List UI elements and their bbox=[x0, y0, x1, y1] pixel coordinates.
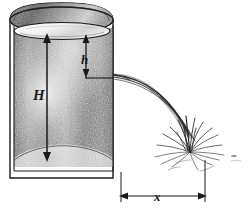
water-body bbox=[14, 24, 113, 167]
ground-splash bbox=[155, 116, 241, 171]
figure-canvas bbox=[0, 0, 249, 213]
dimension-arrow-x bbox=[119, 160, 207, 202]
dimension-label-x: x bbox=[154, 190, 161, 203]
dimension-label-h: h bbox=[81, 53, 88, 66]
water-surface-ellipse bbox=[14, 23, 110, 40]
dimension-label-H: H bbox=[33, 88, 45, 103]
efflux-figure: H h x bbox=[0, 0, 249, 213]
